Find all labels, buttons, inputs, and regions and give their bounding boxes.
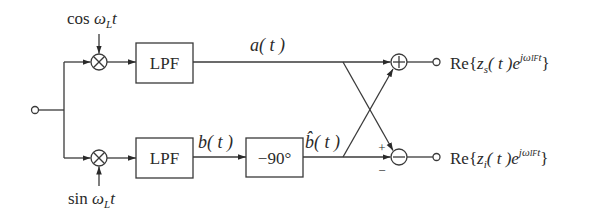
output-terminal-bottom: [433, 154, 440, 161]
summer-top: [391, 54, 407, 70]
lo-sin-label: sin ωLt: [68, 190, 115, 210]
signal-a-label: a( t ): [250, 36, 285, 54]
signal-b-label: b( t ): [198, 133, 233, 151]
lpf-top-label: LPF: [150, 54, 179, 73]
signal-bhat-label: b̂( t ): [305, 133, 340, 151]
wire-a-to-summer-bottom: [343, 62, 393, 151]
input-terminal: [32, 107, 39, 114]
lo-cos-label: cos ωLt: [67, 10, 117, 30]
phase-shift-label: −90°: [258, 149, 291, 168]
mixer-bottom: [91, 150, 107, 166]
output-top-label: Re{zs( t )ejωIFt}: [450, 52, 550, 75]
output-terminal-top: [433, 59, 440, 66]
mixer-top: [91, 54, 107, 70]
summer-bottom: [391, 149, 407, 165]
lpf-bottom-label: LPF: [150, 149, 179, 168]
output-bottom-label: Re{zi( t )ejωIFt}: [450, 147, 548, 170]
image-reject-mixer-diagram: LPF LPF −90° + −: [0, 0, 607, 220]
summer-bottom-plus-sign: +: [378, 140, 385, 155]
summer-bottom-minus-sign: −: [378, 163, 385, 178]
